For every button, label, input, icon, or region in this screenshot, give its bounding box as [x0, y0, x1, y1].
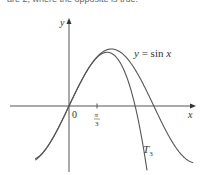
tick-label-denominator: 3	[95, 120, 99, 128]
sin-curve-label: y = sin x	[133, 47, 171, 59]
origin-label: 0	[72, 109, 77, 120]
plot-area: y x 0 π 3 y = sin x T3	[0, 0, 206, 175]
y-axis-label: y	[59, 17, 65, 28]
x-axis-label: x	[187, 109, 193, 120]
y-axis-arrow-icon	[67, 18, 72, 24]
x-axis-arrow-icon	[190, 104, 196, 109]
tick-label-numerator: π	[95, 111, 99, 119]
t3-curve	[35, 52, 147, 170]
